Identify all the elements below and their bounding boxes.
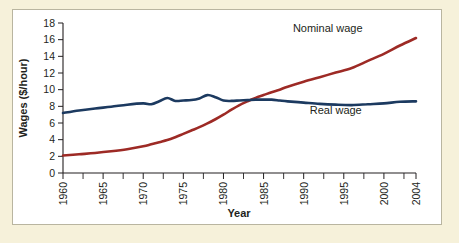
x-tick-label-2000: 2000 (378, 182, 390, 206)
x-tick-label-1965: 1965 (97, 182, 109, 206)
x-tick-label-1960: 1960 (57, 182, 69, 206)
x-tick-label-2004: 2004 (410, 182, 422, 206)
y-tick-label-8: 8 (49, 100, 55, 112)
series-group (63, 38, 416, 156)
x-tick-label-1985: 1985 (258, 182, 270, 206)
y-tick-label-0: 0 (49, 167, 55, 179)
figure-root: 024681012141618 196019651970197519801985… (0, 0, 459, 243)
y-tick-label-2: 2 (49, 150, 55, 162)
y-tick-label-4: 4 (49, 133, 55, 145)
y-tick-label-16: 16 (43, 33, 55, 45)
x-tick-label-1990: 1990 (298, 182, 310, 206)
x-tick-label-1995: 1995 (338, 182, 350, 206)
y-axis-title: Wages ($/hour) (17, 58, 29, 137)
y-tick-label-6: 6 (49, 117, 55, 129)
y-tick-label-14: 14 (43, 50, 55, 62)
series-line-nominal-wage (63, 38, 416, 156)
y-tick-label-18: 18 (43, 17, 55, 29)
y-tick-label-group: 024681012141618 (43, 17, 55, 179)
x-tick-label-group: 1960196519701975198019851990199520002004 (57, 182, 422, 206)
series-label-real-wage: Real wage (310, 104, 362, 116)
x-tick-label-1970: 1970 (137, 182, 149, 206)
x-axis-title: Year (227, 207, 251, 219)
x-tick-group (63, 173, 416, 179)
series-label-nominal-wage: Nominal wage (293, 22, 363, 34)
wage-line-chart: 024681012141618 196019651970197519801985… (13, 10, 441, 224)
y-tick-group (58, 23, 63, 173)
x-tick-label-1980: 1980 (217, 182, 229, 206)
y-tick-label-10: 10 (43, 83, 55, 95)
y-tick-label-12: 12 (43, 67, 55, 79)
x-tick-label-1975: 1975 (177, 182, 189, 206)
chart-card: 024681012141618 196019651970197519801985… (12, 9, 442, 225)
